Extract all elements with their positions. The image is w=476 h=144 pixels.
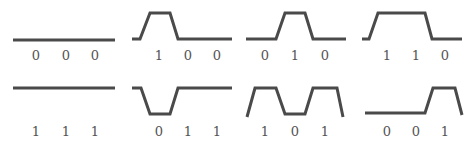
bit-label: 0 [91,48,99,63]
panel-011: 0 1 1 [132,88,232,139]
bit-label: 0 [383,124,391,139]
bit-label: 0 [261,48,269,63]
bit-label: 0 [321,48,329,63]
bit-label: 1 [441,124,449,139]
waveform-110 [362,13,462,39]
waveform-100 [132,13,232,39]
waveform-011 [132,88,232,114]
panel-101: 1 0 1 [247,88,343,139]
bit-label: 0 [155,124,163,139]
panel-100: 1 0 0 [132,13,232,63]
bit-label: 1 [62,124,70,139]
bit-label: 1 [184,124,192,139]
bit-label: 1 [291,48,299,63]
bit-label: 0 [291,124,299,139]
bit-label: 1 [412,48,420,63]
panel-000: 0 0 0 [13,40,115,63]
bit-label: 1 [321,124,329,139]
bit-label: 1 [155,48,163,63]
waveform-010 [246,13,346,39]
bit-label: 0 [184,48,192,63]
waveform-diagram: 0 0 0 1 0 0 0 1 0 1 1 0 1 1 1 0 1 1 1 0 … [0,0,476,144]
bit-label: 0 [441,48,449,63]
waveform-101 [247,88,343,117]
panel-110: 1 1 0 [362,13,462,63]
panel-001: 0 0 1 [365,88,462,139]
bit-label: 1 [32,124,40,139]
panel-111: 1 1 1 [13,88,115,139]
bit-label: 1 [383,48,391,63]
bit-label: 1 [91,124,99,139]
waveform-001 [365,88,462,115]
bit-label: 0 [412,124,420,139]
bit-label: 0 [62,48,70,63]
bit-label: 1 [213,124,221,139]
bit-label: 0 [32,48,40,63]
bit-label: 1 [261,124,269,139]
bit-label: 0 [213,48,221,63]
panel-010: 0 1 0 [246,13,346,63]
